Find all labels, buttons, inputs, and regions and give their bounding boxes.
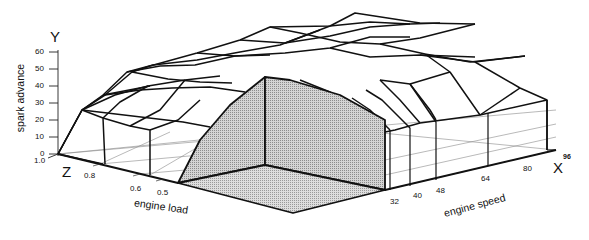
- z-tick-0.8: 0.8: [84, 171, 95, 180]
- y-axis-title: spark advance: [14, 64, 26, 132]
- y-tick-60: 60: [35, 47, 44, 56]
- y-axis: [48, 50, 58, 158]
- y-tick-50: 50: [35, 64, 44, 73]
- base-ticks: [93, 164, 163, 181]
- x-axis-letter: X: [553, 159, 563, 176]
- z-axis-letter: Z: [62, 163, 71, 180]
- y-tick-20: 20: [35, 115, 44, 124]
- z-tick-0.5: 0.5: [157, 188, 168, 197]
- cutaway-block: [178, 77, 385, 213]
- y-axis-letter: Y: [50, 28, 60, 45]
- x-tick-96: 96: [563, 153, 571, 160]
- z-tick-0.6: 0.6: [130, 184, 141, 193]
- y-tick-10: 10: [35, 132, 44, 141]
- x-tick-48: 48: [436, 186, 445, 195]
- z-tick-1.0: 1.0: [34, 156, 45, 165]
- x-tick-40: 40: [413, 191, 422, 200]
- y-tick-40: 40: [35, 81, 44, 90]
- y-tick-30: 30: [35, 98, 44, 107]
- x-tick-80: 80: [523, 164, 532, 173]
- x-tick-32: 32: [390, 197, 399, 206]
- x-tick-64: 64: [481, 174, 490, 183]
